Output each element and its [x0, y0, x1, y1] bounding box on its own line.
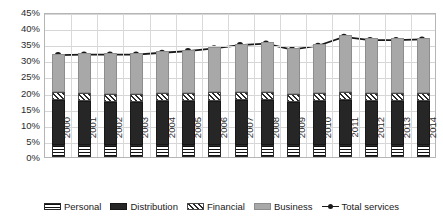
legend-swatch-financial: [187, 203, 204, 210]
y-axis-tick-label: 25%: [0, 72, 40, 82]
legend-item: Distribution: [110, 201, 178, 212]
bar-segment-business: [130, 53, 143, 93]
bar-segment-financial: [208, 92, 221, 100]
bar-segment-business: [339, 35, 352, 92]
x-axis-tick-label: 2003: [140, 117, 150, 161]
y-axis-tick-label: 15%: [0, 105, 40, 115]
legend-swatch-business: [254, 203, 271, 210]
y-axis: 45%40%35%30%25%20%15%10%5%0%: [0, 0, 40, 224]
bar-segment-business: [417, 38, 430, 93]
legend-item: Business: [254, 201, 313, 212]
x-axis-tick-label: 2002: [114, 117, 124, 161]
y-axis-tick-label: 30%: [0, 56, 40, 66]
bar-segment-financial: [52, 92, 65, 100]
x-axis-tick-label: 2001: [88, 117, 98, 161]
bar-segment-business: [208, 47, 221, 92]
bar-segment-financial: [235, 92, 248, 100]
legend-swatch-distribution: [110, 203, 127, 210]
bar-segment-financial: [130, 94, 143, 102]
bar-segment-business: [391, 38, 404, 92]
x-axis-tick-label: 2007: [245, 117, 255, 161]
bar-segment-business: [287, 48, 300, 93]
bar-segment-financial: [313, 93, 326, 101]
y-axis-tick-label: 5%: [0, 137, 40, 147]
bar-segment-financial: [391, 93, 404, 101]
x-axis-tick-label: 2009: [297, 117, 307, 161]
legend-swatch-personal: [44, 203, 61, 210]
y-axis-tick-label: 45%: [0, 8, 40, 18]
bar-segment-business: [182, 50, 195, 93]
y-axis-tick-label: 10%: [0, 121, 40, 131]
x-axis-tick-label: 2012: [376, 117, 386, 161]
legend-label: Personal: [64, 201, 102, 212]
x-axis-tick-label: 2000: [62, 117, 72, 161]
legend-item: Financial: [187, 201, 245, 212]
bar-segment-business: [313, 44, 326, 93]
vertical-gridline: [150, 14, 151, 157]
legend-item: Total services: [322, 201, 400, 212]
bar-segment-business: [156, 51, 169, 93]
x-axis-tick-label: 2011: [350, 117, 360, 161]
bar-segment-financial: [104, 94, 117, 102]
legend-item: Personal: [44, 201, 102, 212]
bar-segment-business: [104, 53, 117, 93]
x-axis-tick-label: 2010: [323, 117, 333, 161]
bar-segment-financial: [78, 93, 91, 101]
x-axis-tick-label: 2008: [271, 117, 281, 161]
y-axis-tick-label: 0%: [0, 153, 40, 163]
bar-segment-business: [52, 54, 65, 93]
legend-label: Business: [274, 201, 313, 212]
legend-label: Total services: [342, 201, 400, 212]
x-axis-tick-label: 2006: [219, 117, 229, 161]
chart-legend: PersonalDistributionFinancialBusinessTot…: [0, 199, 443, 213]
bar-segment-financial: [417, 93, 430, 101]
bar-segment-business: [235, 44, 248, 92]
bar-segment-financial: [287, 94, 300, 102]
bar-segment-business: [261, 42, 274, 92]
y-axis-tick-label: 35%: [0, 40, 40, 50]
legend-label: Distribution: [130, 201, 178, 212]
legend-label: Financial: [207, 201, 245, 212]
bar-segment-financial: [339, 92, 352, 100]
bar-segment-financial: [156, 93, 169, 101]
bar-segment-financial: [261, 92, 274, 100]
legend-swatch-total: [322, 203, 339, 210]
y-axis-tick-label: 20%: [0, 89, 40, 99]
stacked-bar-chart: 45%40%35%30%25%20%15%10%5%0% PersonalDis…: [0, 0, 443, 224]
y-axis-tick-label: 40%: [0, 24, 40, 34]
bar-segment-business: [78, 53, 91, 93]
x-axis-tick-label: 2005: [193, 117, 203, 161]
bar-segment-financial: [365, 93, 378, 101]
x-axis-tick-label: 2013: [402, 117, 412, 161]
x-axis-tick-label: 2004: [167, 117, 177, 161]
x-axis-tick-label: 2014: [428, 117, 438, 161]
bar-segment-business: [365, 38, 378, 92]
bar-segment-financial: [182, 93, 195, 101]
